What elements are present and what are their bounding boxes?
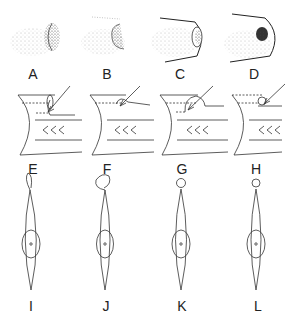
- panel-b-drawing: [81, 17, 125, 55]
- panel-label-a: A: [23, 66, 43, 82]
- panel-a-drawing: [10, 23, 60, 56]
- panel-label-j: J: [96, 298, 116, 314]
- panel-label-h: H: [246, 161, 266, 177]
- panel-j-drawing: [96, 175, 114, 290]
- panel-label-b: B: [97, 66, 117, 82]
- panel-e-drawing: [18, 86, 82, 155]
- panel-label-f: F: [97, 161, 117, 177]
- panel-label-k: K: [172, 298, 192, 314]
- panel-f-drawing: [90, 86, 154, 155]
- panel-label-l: L: [248, 298, 268, 314]
- panel-label-i: I: [21, 298, 41, 314]
- panel-h-drawing: [232, 84, 285, 155]
- panel-g-drawing: [160, 86, 228, 155]
- panel-label-d: D: [244, 66, 264, 82]
- panel-c-drawing: [151, 18, 202, 62]
- panel-label-g: G: [172, 161, 192, 177]
- panel-k-drawing: [172, 179, 190, 291]
- panel-label-e: E: [23, 161, 43, 177]
- panel-i-drawing: [22, 173, 40, 290]
- panel-label-c: C: [170, 66, 190, 82]
- panel-d-drawing: [224, 14, 275, 62]
- panel-l-drawing: [247, 179, 265, 290]
